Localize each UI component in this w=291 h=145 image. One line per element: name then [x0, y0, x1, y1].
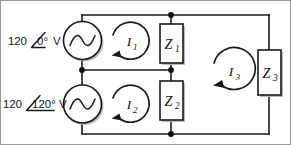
- i2-arrowhead-icon: [112, 114, 122, 121]
- mesh-current-i2: I 2: [112, 85, 150, 122]
- i2-subscript: 2: [133, 105, 138, 115]
- circuit-diagram-figure: 120 0° V 120 120° V Z 1 Z 2: [0, 0, 291, 145]
- circuit-schematic: 120 0° V 120 120° V Z 1 Z 2: [1, 1, 291, 145]
- source-2-label-group: 120 120° V: [3, 96, 67, 111]
- i1-arrowhead-icon: [112, 51, 122, 58]
- i2-letter: I: [126, 97, 133, 112]
- z1-letter: Z: [165, 37, 173, 52]
- i3-letter: I: [228, 64, 235, 79]
- impedance-z1: Z 1: [160, 24, 185, 65]
- z1-subscript: 1: [175, 44, 180, 54]
- ac-source-1: [64, 22, 104, 62]
- mesh-current-i3: I 3: [213, 47, 255, 89]
- i3-subscript: 3: [235, 72, 241, 82]
- z2-subscript: 2: [175, 101, 180, 111]
- source-1-angle: 0°: [37, 35, 48, 47]
- i1-subscript: 1: [133, 42, 138, 52]
- source-1-magnitude: 120: [8, 35, 27, 47]
- impedance-z2: Z 2: [160, 81, 185, 122]
- junction-dot-center-middle: [168, 67, 174, 73]
- ac-source-2: [64, 85, 104, 125]
- source-2-magnitude: 120: [3, 98, 22, 110]
- i3-arrowhead-icon: [213, 80, 225, 88]
- z3-subscript: 3: [272, 73, 278, 83]
- impedance-z3: Z 3: [258, 50, 283, 97]
- source-2-angle: 120°: [32, 98, 56, 110]
- z2-letter: Z: [165, 94, 173, 109]
- mesh-current-i1: I 1: [112, 22, 150, 59]
- junction-dot-left-middle: [79, 67, 85, 73]
- junction-dot-bottom: [168, 131, 174, 137]
- i1-letter: I: [126, 34, 133, 49]
- source-1-label-group: 120 0° V: [8, 33, 61, 48]
- junction-dot-top: [168, 12, 174, 18]
- source-1-unit: V: [53, 35, 61, 47]
- source-2-unit: V: [59, 98, 67, 110]
- z3-letter: Z: [263, 66, 271, 81]
